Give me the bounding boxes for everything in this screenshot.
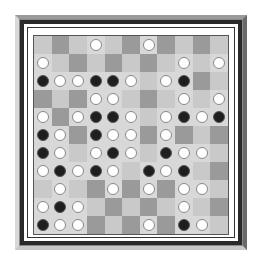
board-square-r7-c10[interactable] bbox=[210, 162, 228, 180]
black-piece[interactable] bbox=[107, 75, 119, 87]
board-square-r2-c10[interactable] bbox=[210, 72, 228, 90]
board-square-r2-c0[interactable] bbox=[34, 72, 52, 90]
board-square-r4-c8[interactable] bbox=[175, 108, 193, 126]
board-square-r2-c9[interactable] bbox=[193, 72, 211, 90]
board-square-r9-c0[interactable] bbox=[34, 198, 52, 216]
board-square-r7-c3[interactable] bbox=[87, 162, 105, 180]
board-square-r2-c4[interactable] bbox=[105, 72, 123, 90]
board-square-r5-c2[interactable] bbox=[69, 126, 87, 144]
white-piece[interactable] bbox=[196, 219, 208, 231]
board-square-r10-c10[interactable] bbox=[210, 216, 228, 234]
black-piece[interactable] bbox=[90, 129, 102, 141]
white-piece[interactable] bbox=[196, 183, 208, 195]
white-piece[interactable] bbox=[160, 165, 172, 177]
white-piece[interactable] bbox=[178, 93, 190, 105]
board-square-r10-c7[interactable] bbox=[157, 216, 175, 234]
board-square-r8-c9[interactable] bbox=[193, 180, 211, 198]
board-square-r8-c0[interactable] bbox=[34, 180, 52, 198]
black-piece[interactable] bbox=[178, 165, 190, 177]
board-square-r9-c2[interactable] bbox=[69, 198, 87, 216]
board-square-r8-c8[interactable] bbox=[175, 180, 193, 198]
board-square-r1-c5[interactable] bbox=[122, 54, 140, 72]
board-square-r1-c9[interactable] bbox=[193, 54, 211, 72]
board-square-r0-c2[interactable] bbox=[69, 36, 87, 54]
board-square-r5-c10[interactable] bbox=[210, 126, 228, 144]
board-square-r3-c5[interactable] bbox=[122, 90, 140, 108]
black-piece[interactable] bbox=[54, 165, 66, 177]
white-piece[interactable] bbox=[178, 201, 190, 213]
board-square-r7-c2[interactable] bbox=[69, 162, 87, 180]
board-square-r8-c1[interactable] bbox=[52, 180, 70, 198]
board-square-r2-c2[interactable] bbox=[69, 72, 87, 90]
white-piece[interactable] bbox=[213, 57, 225, 69]
board-square-r5-c5[interactable] bbox=[122, 126, 140, 144]
white-piece[interactable] bbox=[72, 165, 84, 177]
white-piece[interactable] bbox=[90, 93, 102, 105]
board-square-r3-c3[interactable] bbox=[87, 90, 105, 108]
black-piece[interactable] bbox=[160, 147, 172, 159]
board-square-r0-c5[interactable] bbox=[122, 36, 140, 54]
board-square-r10-c3[interactable] bbox=[87, 216, 105, 234]
board-square-r7-c8[interactable] bbox=[175, 162, 193, 180]
black-piece[interactable] bbox=[54, 201, 66, 213]
white-piece[interactable] bbox=[54, 219, 66, 231]
board-square-r9-c8[interactable] bbox=[175, 198, 193, 216]
white-piece[interactable] bbox=[143, 183, 155, 195]
board-square-r5-c7[interactable] bbox=[157, 126, 175, 144]
board-square-r1-c6[interactable] bbox=[140, 54, 158, 72]
white-piece[interactable] bbox=[178, 147, 190, 159]
board-square-r9-c10[interactable] bbox=[210, 198, 228, 216]
board-square-r4-c0[interactable] bbox=[34, 108, 52, 126]
board-square-r8-c3[interactable] bbox=[87, 180, 105, 198]
white-piece[interactable] bbox=[160, 75, 172, 87]
board-square-r9-c1[interactable] bbox=[52, 198, 70, 216]
board-square-r6-c3[interactable] bbox=[87, 144, 105, 162]
white-piece[interactable] bbox=[160, 111, 172, 123]
board-square-r0-c7[interactable] bbox=[157, 36, 175, 54]
board-square-r4-c2[interactable] bbox=[69, 108, 87, 126]
board-square-r6-c1[interactable] bbox=[52, 144, 70, 162]
board-square-r10-c9[interactable] bbox=[193, 216, 211, 234]
board-square-r1-c0[interactable] bbox=[34, 54, 52, 72]
board-square-r5-c0[interactable] bbox=[34, 126, 52, 144]
board-square-r9-c4[interactable] bbox=[105, 198, 123, 216]
board-square-r6-c5[interactable] bbox=[122, 144, 140, 162]
white-piece[interactable] bbox=[37, 201, 49, 213]
board-square-r1-c10[interactable] bbox=[210, 54, 228, 72]
white-piece[interactable] bbox=[196, 111, 208, 123]
board-square-r3-c4[interactable] bbox=[105, 90, 123, 108]
game-board[interactable] bbox=[33, 35, 229, 235]
board-square-r0-c10[interactable] bbox=[210, 36, 228, 54]
board-square-r8-c10[interactable] bbox=[210, 180, 228, 198]
white-piece[interactable] bbox=[160, 129, 172, 141]
board-square-r7-c0[interactable] bbox=[34, 162, 52, 180]
white-piece[interactable] bbox=[196, 147, 208, 159]
black-piece[interactable] bbox=[37, 147, 49, 159]
board-square-r4-c5[interactable] bbox=[122, 108, 140, 126]
board-square-r8-c6[interactable] bbox=[140, 180, 158, 198]
board-square-r2-c5[interactable] bbox=[122, 72, 140, 90]
white-piece[interactable] bbox=[72, 201, 84, 213]
board-square-r1-c1[interactable] bbox=[52, 54, 70, 72]
black-piece[interactable] bbox=[178, 111, 190, 123]
board-square-r7-c5[interactable] bbox=[122, 162, 140, 180]
black-piece[interactable] bbox=[37, 129, 49, 141]
white-piece[interactable] bbox=[143, 39, 155, 51]
white-piece[interactable] bbox=[107, 183, 119, 195]
board-square-r9-c3[interactable] bbox=[87, 198, 105, 216]
board-square-r0-c8[interactable] bbox=[175, 36, 193, 54]
board-square-r3-c9[interactable] bbox=[193, 90, 211, 108]
board-square-r8-c4[interactable] bbox=[105, 180, 123, 198]
board-square-r6-c0[interactable] bbox=[34, 144, 52, 162]
white-piece[interactable] bbox=[54, 129, 66, 141]
black-piece[interactable] bbox=[37, 75, 49, 87]
white-piece[interactable] bbox=[125, 75, 137, 87]
board-square-r9-c7[interactable] bbox=[157, 198, 175, 216]
board-square-r3-c8[interactable] bbox=[175, 90, 193, 108]
board-square-r3-c2[interactable] bbox=[69, 90, 87, 108]
board-square-r5-c8[interactable] bbox=[175, 126, 193, 144]
board-square-r10-c8[interactable] bbox=[175, 216, 193, 234]
black-piece[interactable] bbox=[37, 219, 49, 231]
board-square-r2-c6[interactable] bbox=[140, 72, 158, 90]
white-piece[interactable] bbox=[90, 39, 102, 51]
